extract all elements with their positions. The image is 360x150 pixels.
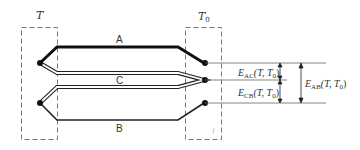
wire-a — [40, 47, 204, 63]
emf-ab-arrow — [299, 63, 303, 103]
hot-zone-label: T — [36, 9, 45, 22]
thermocouple-diagram: T T0 A C B EAC(T, T0 — [0, 0, 360, 150]
hot-junction-cb-dot — [37, 100, 43, 106]
hot-junction-ac-dot — [37, 60, 43, 66]
cold-zone-tick — [213, 128, 214, 134]
emf-cb-label: ECB(T, T0) — [237, 87, 279, 100]
svg-text:T0: T0 — [198, 10, 210, 24]
cold-zone-label: T0 — [198, 10, 210, 24]
wire-b-label: B — [116, 123, 123, 134]
wire-a-label: A — [116, 34, 123, 45]
wire-c-label: C — [116, 75, 123, 86]
emf-ab-label: EAB(T, T0) — [304, 78, 346, 91]
emf-ac-label: EAC(T, T0) — [237, 67, 279, 80]
wire-b — [40, 103, 204, 120]
hot-junction-zone — [22, 28, 58, 140]
